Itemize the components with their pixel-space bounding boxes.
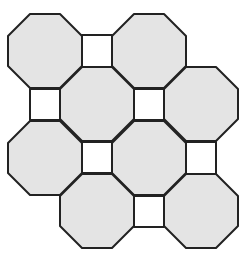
tiling-diagram: Truncated square tiling (octagons and sq… xyxy=(0,0,247,256)
square-tile xyxy=(134,196,164,227)
octagon-tile xyxy=(60,174,134,248)
square-tile xyxy=(82,35,112,67)
square-tile xyxy=(30,89,60,120)
square-tile xyxy=(82,142,112,173)
octagon-tile xyxy=(164,67,238,141)
octagons-layer xyxy=(8,14,238,248)
octagon-tile xyxy=(164,174,238,248)
square-tile xyxy=(134,89,164,120)
octagon-tile xyxy=(60,67,134,141)
square-tile xyxy=(186,142,216,174)
tiling-svg: Truncated square tiling (octagons and sq… xyxy=(0,0,247,256)
